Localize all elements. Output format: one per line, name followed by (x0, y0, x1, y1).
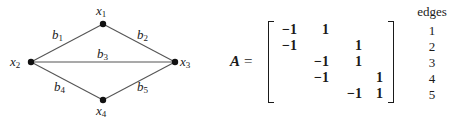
node-x3 (172, 59, 178, 65)
node-x1 (100, 21, 106, 27)
node-label-x2-sub: 2 (16, 60, 21, 70)
matrix-lhs: A= (230, 54, 252, 69)
node-label-x3-sub: 3 (186, 60, 191, 70)
matrix-name: A (230, 53, 240, 69)
right-bracket (388, 21, 394, 103)
matrix-cell-r1-c2: 1 (305, 23, 329, 37)
node-label-x3: x3 (180, 55, 190, 70)
edge-number-5: 5 (412, 87, 452, 103)
edge-label-b3: b3 (97, 47, 108, 62)
edges-header: edges (412, 4, 452, 20)
edge-number-4: 4 (412, 71, 452, 87)
matrix-cell-r4-c4: 1 (359, 71, 383, 85)
matrix-cell-r4-c2: −1 (305, 71, 329, 85)
matrix-cell-r2-c1: −1 (273, 39, 297, 53)
edge-number-1: 1 (412, 23, 452, 39)
node-x2 (28, 59, 34, 65)
matrix-cell-r3-c3: 1 (338, 55, 362, 69)
edge-b1 (31, 24, 103, 62)
edge-label-b5: b5 (137, 80, 148, 95)
edge-label-b4: b4 (54, 80, 65, 95)
matrix-cell-r3-c2: −1 (305, 55, 329, 69)
edge-number-3: 3 (412, 55, 452, 71)
matrix-cell-r5-c4: 1 (359, 87, 383, 101)
edge-label-b1-sub: 1 (59, 33, 64, 43)
incidence-graph: x1 x2 x3 x4 b1 b2 b3 b4 b5 (0, 0, 210, 117)
node-label-x2: x2 (10, 55, 20, 70)
edge-label-b5-sub: 5 (144, 85, 149, 95)
matrix-cell-r2-c3: 1 (338, 39, 362, 53)
edge-number-2: 2 (412, 39, 452, 55)
edge-label-b4-sub: 4 (61, 85, 66, 95)
equals-sign: = (244, 53, 252, 69)
edge-label-b2-sub: 2 (144, 33, 149, 43)
node-label-x1: x1 (96, 4, 106, 19)
edge-label-b1: b1 (52, 28, 63, 43)
edge-b4 (31, 62, 103, 100)
node-label-x4: x4 (96, 104, 106, 117)
edge-label-b2: b2 (137, 28, 148, 43)
edge-label-b3-sub: 3 (104, 52, 109, 62)
matrix-cell-r1-c1: −1 (273, 23, 297, 37)
node-label-x4-sub: 4 (102, 109, 107, 117)
node-label-x1-sub: 1 (102, 9, 107, 19)
